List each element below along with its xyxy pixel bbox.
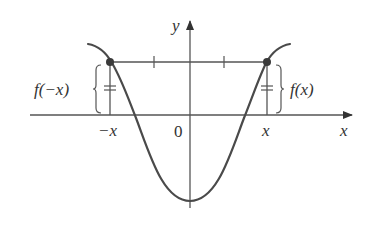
- pos-x-tick-label: x: [261, 121, 270, 140]
- y-axis-label: y: [170, 16, 180, 35]
- neg-x-tick-label: −x: [98, 121, 117, 140]
- x-axis-label: x: [339, 121, 348, 140]
- right-brace: [276, 65, 284, 113]
- point-neg-x: [106, 58, 114, 66]
- origin-label: 0: [174, 122, 183, 141]
- left-brace: [93, 65, 101, 113]
- f-neg-x-label: f(−x): [34, 80, 69, 99]
- point-pos-x: [263, 58, 271, 66]
- f-x-label: f(x): [290, 80, 314, 99]
- function-curve: [88, 44, 290, 201]
- even-function-diagram: y x 0 −x x f(−x) f(x): [0, 0, 380, 237]
